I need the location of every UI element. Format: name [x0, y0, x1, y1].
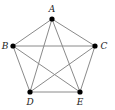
edge-a-c — [52, 19, 95, 46]
vertex-d — [27, 89, 32, 94]
vertex-label-e: E — [76, 97, 84, 107]
vertex-label-c: C — [101, 41, 108, 51]
edges-layer — [13, 19, 95, 92]
complete-graph-k5: ABCDE — [0, 0, 115, 110]
edge-c-d — [30, 46, 95, 92]
edge-a-e — [52, 19, 80, 92]
vertex-a — [49, 16, 54, 21]
vertex-e — [77, 89, 82, 94]
vertices-layer — [10, 16, 97, 94]
vertex-label-a: A — [48, 4, 56, 14]
vertex-b — [10, 43, 15, 48]
edge-c-e — [80, 46, 95, 92]
vertex-c — [92, 43, 97, 48]
edge-b-d — [13, 46, 30, 92]
edge-a-b — [13, 19, 52, 46]
edge-b-e — [13, 46, 80, 92]
vertex-label-b: B — [1, 41, 9, 51]
vertex-label-d: D — [25, 97, 33, 107]
edge-a-d — [30, 19, 52, 92]
